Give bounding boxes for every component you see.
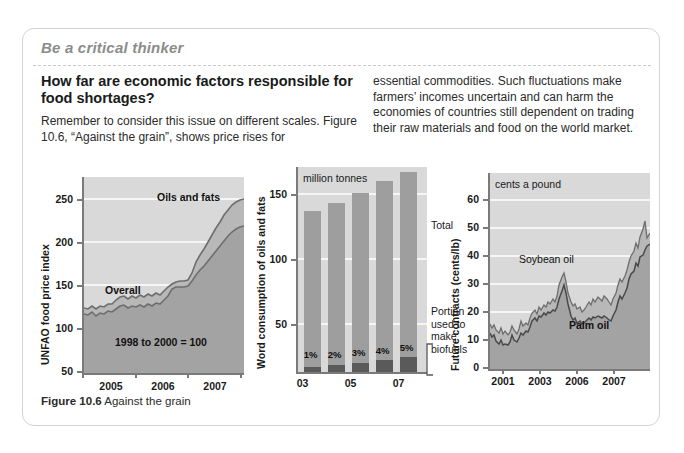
chart1-ytick-250: 250 bbox=[39, 193, 73, 205]
chart-oils-fats-consumption: Word consumption of oils and fats 150 10… bbox=[245, 157, 445, 384]
page-root: Be a critical thinker How far are econom… bbox=[0, 0, 684, 453]
chart2-ytick-50: 50 bbox=[253, 318, 287, 330]
chart3-xtick-2006: 2006 bbox=[560, 375, 594, 387]
critical-thinker-panel: Be a critical thinker How far are econom… bbox=[22, 28, 660, 426]
chart3-xtick-2001: 2001 bbox=[486, 375, 520, 387]
chart2-xtick-07: 07 bbox=[384, 377, 413, 389]
chart3-xtickmark bbox=[576, 369, 578, 374]
figure-caption-text: Against the grain bbox=[104, 395, 190, 407]
chart2-ytick-100: 100 bbox=[253, 253, 287, 265]
chart1-xtickmark bbox=[82, 373, 84, 378]
chart3-xtickmark bbox=[502, 369, 504, 374]
chart1-ytick-50: 50 bbox=[39, 365, 73, 377]
chart2-biofuel-bracket bbox=[422, 343, 434, 377]
chart-future-contracts: Future contracts (cents/lb) 60 50 40 30 … bbox=[441, 161, 653, 384]
chart3-xtick-2003: 2003 bbox=[523, 375, 557, 387]
paragraph-right: essential commodities. Such fluctuations… bbox=[373, 73, 645, 136]
chart3-ytick-30: 30 bbox=[449, 277, 479, 289]
chart3-xtick-2007: 2007 bbox=[597, 375, 631, 387]
figure-caption: Figure 10.6 Against the grain bbox=[41, 395, 191, 407]
chart3-ytick-0: 0 bbox=[449, 361, 479, 373]
page-headline: How far are economic factors responsible… bbox=[41, 73, 361, 107]
chart-food-price-index: UNFAO food price index 250 200 150 100 5… bbox=[27, 169, 249, 384]
chart1-xtick-2006: 2006 bbox=[139, 380, 187, 392]
chart1-ytick-200: 200 bbox=[39, 236, 73, 248]
paragraph-left: Remember to consider this issue on diffe… bbox=[41, 114, 361, 145]
chart1-ylabel: UNFAO food price index bbox=[39, 244, 51, 365]
chart2-bar-pct-07: 5% bbox=[392, 342, 421, 353]
chart2-unit-note: million tonnes bbox=[303, 172, 367, 184]
chart2-xtick-05: 05 bbox=[336, 377, 365, 389]
chart3-plot-area bbox=[488, 173, 650, 371]
chart1-xtickmark bbox=[187, 373, 189, 378]
chart3-xtickmark bbox=[539, 369, 541, 374]
chart3-label-palm-oil: Palm oil bbox=[569, 319, 609, 331]
chart1-xtickmark bbox=[135, 373, 137, 378]
chart1-ytick-100: 100 bbox=[39, 322, 73, 334]
text-column-right: essential commodities. Such fluctuations… bbox=[373, 73, 645, 136]
chart3-label-soybean-oil: Soybean oil bbox=[519, 253, 574, 265]
chart3-ytick-50: 50 bbox=[449, 221, 479, 233]
chart3-svg bbox=[490, 173, 650, 369]
panel-title: Be a critical thinker bbox=[41, 39, 184, 56]
chart2-xtick-03: 03 bbox=[288, 377, 317, 389]
chart1-xtickmark bbox=[240, 373, 242, 378]
chart3-ytick-40: 40 bbox=[449, 249, 479, 261]
chart1-ytick-150: 150 bbox=[39, 279, 73, 291]
chart1-label-oils-and-fats: Oils and fats bbox=[157, 191, 220, 203]
chart3-xtickmark bbox=[613, 369, 615, 374]
figure-label: Figure 10.6 bbox=[41, 395, 102, 407]
text-column-left: How far are economic factors responsible… bbox=[41, 73, 361, 145]
chart1-xtick-2005: 2005 bbox=[87, 380, 135, 392]
chart3-ytick-10: 10 bbox=[449, 333, 479, 345]
chart2-ylabel: Word consumption of oils and fats bbox=[255, 197, 267, 369]
chart3-unit-note: cents a pound bbox=[495, 178, 561, 190]
chart2-ytick-150: 150 bbox=[253, 188, 287, 200]
chart3-ytick-60: 60 bbox=[449, 193, 479, 205]
chart1-xtick-2007: 2007 bbox=[191, 380, 239, 392]
chart3-ytick-20: 20 bbox=[449, 305, 479, 317]
chart1-annotation: 1998 to 2000 = 100 bbox=[115, 336, 207, 348]
panel-divider bbox=[33, 65, 651, 66]
chart1-label-overall: Overall bbox=[105, 284, 141, 296]
